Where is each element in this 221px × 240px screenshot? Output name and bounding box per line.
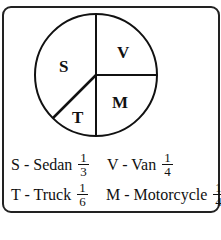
fraction: 14 [162, 151, 173, 178]
legend-label: S - Sedan [11, 156, 72, 174]
fraction: 16 [77, 181, 88, 208]
legend-motorcycle: M - Motorcycle 14 [106, 181, 221, 208]
slice-label-motorcycle: M [112, 93, 128, 112]
slice-label-truck: T [72, 108, 84, 127]
slice-label-van: V [117, 43, 130, 62]
legend-label: M - Motorcycle [106, 186, 207, 204]
legend-label: V - Van [107, 156, 156, 174]
legend-sedan: S - Sedan 13 [11, 151, 89, 178]
legend-truck: T - Truck 16 [11, 181, 88, 208]
legend-label: T - Truck [11, 186, 71, 204]
legend-van: V - Van 14 [107, 151, 173, 178]
slice-label-sedan: S [59, 57, 68, 76]
fraction: 13 [78, 151, 89, 178]
fraction: 14 [213, 181, 221, 208]
